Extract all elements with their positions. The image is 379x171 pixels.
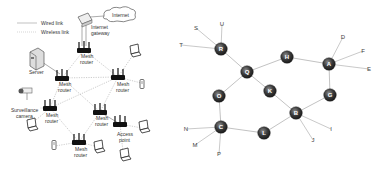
mesh-router: Mesh router <box>93 103 108 127</box>
mesh-router: Mesh router <box>72 133 87 158</box>
svg-text:router: router <box>58 87 71 93</box>
node-label: R <box>219 46 224 52</box>
leaf-label-j: J <box>312 137 315 143</box>
laptop-icon <box>27 118 38 131</box>
laptop-icon <box>139 120 150 133</box>
graph-node-g: G <box>324 89 337 102</box>
leaf-label-m: M <box>193 142 198 148</box>
svg-text:router: router <box>116 87 129 93</box>
graph-node-k: K <box>264 85 277 98</box>
graph-node-r: R <box>215 43 228 56</box>
graph-edge <box>221 127 264 133</box>
access-point: Access point <box>113 115 134 143</box>
mesh-router: Mesh router <box>77 41 93 65</box>
graph-node-a: A <box>323 58 336 71</box>
graph-node-q: Q <box>241 66 254 79</box>
node-label: O <box>217 93 222 99</box>
leaf-label-e: E <box>367 66 371 72</box>
laptop-icon <box>130 44 141 57</box>
router-icon <box>55 69 69 81</box>
router-icon <box>113 115 127 127</box>
svg-text:router: router <box>45 118 58 124</box>
node-label: A <box>327 61 332 67</box>
router-icon <box>43 99 57 111</box>
server: Server <box>29 48 44 75</box>
surveillance-camera: Surveillance camera <box>11 88 38 119</box>
phone-icon <box>52 141 56 150</box>
graph-node-b: B <box>290 107 303 120</box>
gateway-label-2: gateway <box>91 30 110 36</box>
leaf-label-t: T <box>179 42 183 48</box>
mesh-router: Mesh router <box>43 99 58 124</box>
mesh-router: Mesh router <box>111 68 129 93</box>
legend-wired-label: Wired link <box>41 20 63 26</box>
router-icon <box>72 133 86 145</box>
router-icon <box>77 41 91 53</box>
internet-cloud: Internet <box>103 7 135 22</box>
graph-node-c: C <box>215 121 228 134</box>
node-label: H <box>285 54 289 60</box>
node-label: K <box>268 88 273 94</box>
leaf-label-n: N <box>184 126 188 132</box>
laptop-icon <box>120 148 131 161</box>
graph-node-o: O <box>213 90 226 103</box>
svg-text:router: router <box>80 59 93 65</box>
graph-node-h: H <box>281 51 294 64</box>
legend-wireless-label: Wireless link <box>41 29 70 35</box>
leaf-label-p: P <box>217 151 221 157</box>
mesh-network-diagram: Wired link Wireless link <box>11 7 150 161</box>
node-label: G <box>328 92 333 98</box>
leaf-label-f: F <box>361 48 365 54</box>
leaf-label-s: S <box>194 25 198 31</box>
leaf-label-i: I <box>330 126 332 132</box>
router-icon <box>111 68 125 80</box>
diagram-canvas: Wired link Wireless link <box>0 0 379 171</box>
svg-text:point: point <box>119 137 130 143</box>
node-label: L <box>262 130 266 136</box>
internet-label: Internet <box>112 12 130 18</box>
node-label: C <box>219 124 224 130</box>
leaf-label-d: D <box>341 34 346 40</box>
node-label: B <box>294 110 299 116</box>
legend: Wired link Wireless link <box>17 20 70 35</box>
phone-icon <box>140 80 144 89</box>
laptop-icon <box>94 140 105 153</box>
server-label: Server <box>29 69 44 75</box>
router-icon <box>93 103 107 115</box>
leaf-label-u: U <box>220 21 224 27</box>
svg-text:router: router <box>95 121 108 127</box>
node-label: Q <box>245 69 250 75</box>
mesh-router: Mesh router <box>55 69 71 93</box>
node-graph: USTDFEIJNMPRQHAOKGBCL <box>179 21 371 157</box>
svg-text:router: router <box>74 152 87 158</box>
camera-label-2: camera <box>16 113 33 119</box>
graph-node-l: L <box>258 127 271 140</box>
